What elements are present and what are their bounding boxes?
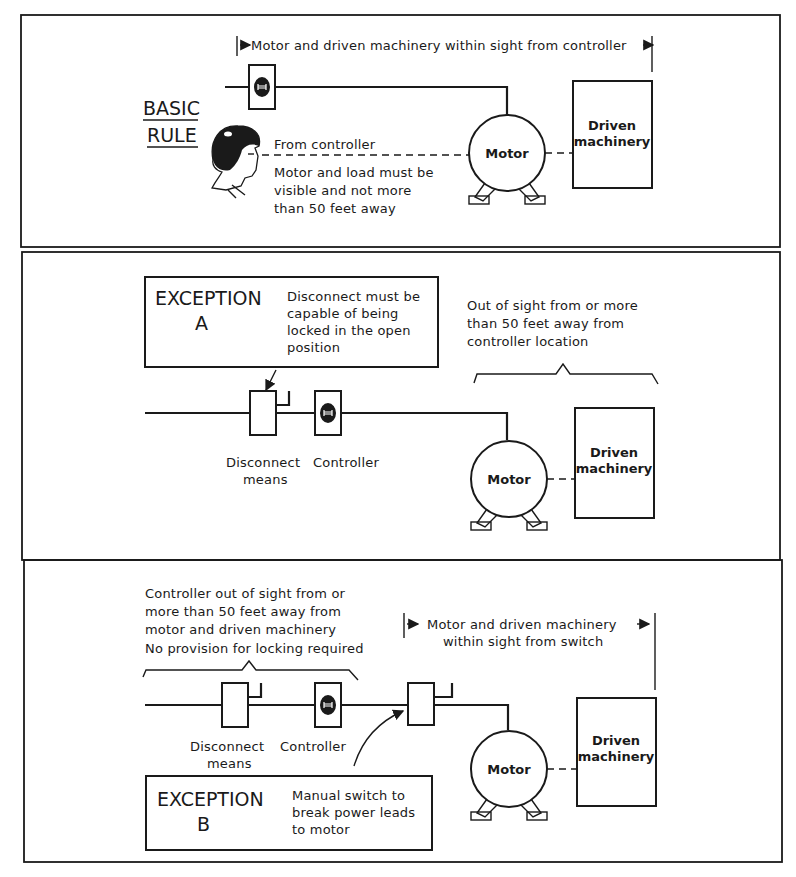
motor-label: Motor [485, 146, 529, 161]
sight-label: From controller [274, 137, 376, 152]
pointer-arrow [266, 370, 276, 390]
panel-basic-rule: Motor and driven machinery within sight … [21, 15, 780, 247]
machinery-label-line2: machinery [578, 749, 655, 764]
motor-label: Motor [487, 762, 531, 777]
exception-text: to motor [292, 822, 350, 837]
span-label-line2: within sight from switch [443, 634, 603, 649]
controller-icon [249, 65, 275, 109]
panel-title-line2: RULE [147, 124, 197, 146]
pointer-arrow [354, 711, 403, 766]
machinery-label-line1: Driven [590, 445, 638, 460]
motor-disconnect-diagram: Motor and driven machinery within sight … [0, 0, 796, 877]
controller-icon [315, 391, 341, 435]
panel-title-line1: BASIC [143, 97, 200, 119]
exception-title: EXCEPTION [155, 287, 262, 309]
brace-label: controller location [467, 334, 589, 349]
brace-label: Controller out of sight from or [145, 586, 346, 601]
brace-label: Out of sight from or more [467, 298, 638, 313]
exception-text: Disconnect must be [287, 289, 420, 304]
span-label: Motor and driven machinery within sight … [251, 38, 627, 53]
panel-exception-b: Controller out of sight from or more tha… [24, 560, 782, 862]
controller-label: Controller [280, 739, 346, 754]
brace-icon [474, 364, 658, 384]
exception-text: Manual switch to [292, 788, 405, 803]
disconnect-label-line1: Disconnect [190, 739, 264, 754]
disconnect-label-line2: means [207, 756, 252, 771]
brace-label: more than 50 feet away from [145, 604, 341, 619]
controller-icon [315, 683, 341, 727]
disconnect-label-line2: means [243, 472, 288, 487]
machinery-label-line1: Driven [588, 118, 636, 133]
machinery-label-line1: Driven [592, 733, 640, 748]
brace-icon [143, 661, 358, 680]
panel-exception-a: EXCEPTION A Disconnect must be capable o… [22, 252, 780, 560]
exception-title: EXCEPTION [157, 788, 264, 810]
brace-label: No provision for locking required [145, 641, 364, 656]
span-label-line1: Motor and driven machinery [427, 617, 617, 632]
machinery-label-line2: machinery [576, 461, 653, 476]
note-line: than 50 feet away [274, 201, 396, 216]
exception-text: position [287, 340, 340, 355]
exception-letter: B [197, 813, 210, 835]
disconnect-label-line1: Disconnect [226, 455, 300, 470]
exception-text: break power leads [292, 805, 415, 820]
controller-label: Controller [313, 455, 379, 470]
brace-label: than 50 feet away from [467, 316, 624, 331]
exception-text: capable of being [287, 306, 399, 321]
machinery-label-line2: machinery [574, 134, 651, 149]
exception-letter: A [195, 312, 208, 334]
brace-label: motor and driven machinery [145, 622, 336, 637]
note-line: visible and not more [274, 183, 411, 198]
exception-text: locked in the open [287, 323, 411, 338]
person-head-icon [212, 126, 260, 198]
motor-label: Motor [487, 472, 531, 487]
note-line: Motor and load must be [274, 165, 434, 180]
